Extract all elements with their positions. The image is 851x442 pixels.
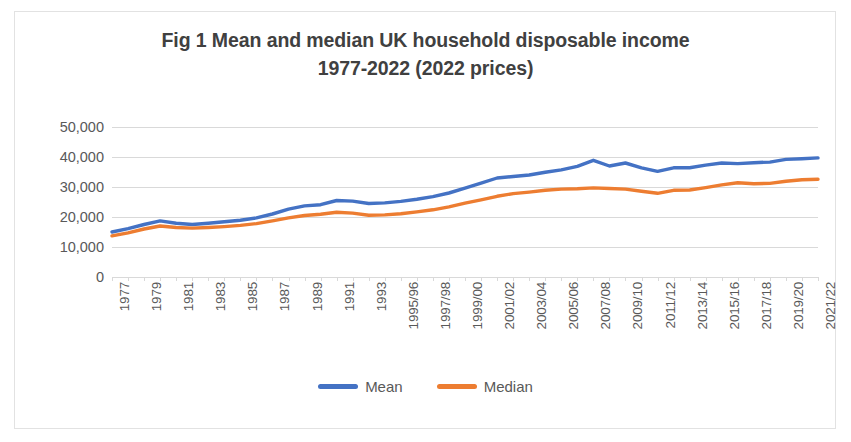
x-axis-tick: [674, 277, 675, 281]
x-axis-tick: [337, 277, 338, 281]
legend-item-mean[interactable]: Mean: [318, 378, 403, 395]
x-axis-tick: [593, 277, 594, 281]
x-axis-tick: [240, 277, 241, 281]
x-axis-tick: [256, 277, 257, 281]
x-axis-tick: [642, 277, 643, 281]
x-axis-tick: [128, 277, 129, 281]
legend-swatch-icon: [318, 384, 358, 389]
chart-title: Fig 1 Mean and median UK household dispo…: [0, 26, 851, 82]
x-axis-tick: [369, 277, 370, 281]
x-axis-tick-label: 1993: [374, 282, 389, 311]
series-lines: [112, 127, 818, 277]
x-axis-tick: [625, 277, 626, 281]
x-axis-labels: 1977197919811983198519871989199119931995…: [112, 282, 818, 362]
x-axis-tick: [658, 277, 659, 281]
x-axis-tick-label: 2013/14: [695, 282, 710, 329]
x-axis-tick: [433, 277, 434, 281]
x-axis-tick: [417, 277, 418, 281]
x-axis-tick: [722, 277, 723, 281]
x-axis-tick-label: 2017/18: [759, 282, 774, 329]
series-line-mean: [112, 158, 818, 232]
x-axis-tick: [545, 277, 546, 281]
x-axis-tick-label: 1981: [181, 282, 196, 311]
x-axis-tick-label: 2003/04: [534, 282, 549, 329]
x-axis-tick: [690, 277, 691, 281]
y-axis-tick-label: 0: [30, 269, 104, 285]
y-axis-tick-label: 40,000: [30, 149, 104, 165]
x-axis-tick: [770, 277, 771, 281]
x-axis-tick-label: 1995/96: [406, 282, 421, 329]
y-axis-tick-label: 30,000: [30, 179, 104, 195]
y-axis-tick-label: 10,000: [30, 239, 104, 255]
x-axis-tick: [818, 277, 819, 281]
x-axis-tick-label: 1983: [213, 282, 228, 311]
x-axis-tick-label: 2015/16: [727, 282, 742, 329]
x-axis-tick-label: 2007/08: [598, 282, 613, 329]
x-axis-tick: [272, 277, 273, 281]
x-axis-tick: [192, 277, 193, 281]
x-axis-tick-label: 2011/12: [663, 282, 678, 328]
x-axis-tick: [529, 277, 530, 281]
x-axis-tick-label: 2021/22: [823, 282, 838, 329]
x-axis-tick: [465, 277, 466, 281]
x-axis-tick: [289, 277, 290, 281]
x-axis-tick-label: 1989: [310, 282, 325, 311]
x-axis-tick: [577, 277, 578, 281]
x-axis-tick: [706, 277, 707, 281]
x-axis-tick: [754, 277, 755, 281]
x-axis-tick: [112, 277, 113, 281]
x-axis-tick: [609, 277, 610, 281]
y-axis-tick-label: 20,000: [30, 209, 104, 225]
x-axis-tick: [802, 277, 803, 281]
x-axis-tick: [481, 277, 482, 281]
x-axis-tick: [449, 277, 450, 281]
x-axis-tick: [321, 277, 322, 281]
plot-area: [112, 127, 818, 277]
x-axis-tick-label: 2005/06: [566, 282, 581, 329]
x-axis-tick-label: 1987: [277, 282, 292, 311]
x-axis-tick: [160, 277, 161, 281]
x-axis-tick: [385, 277, 386, 281]
x-axis-tick-label: 2019/20: [791, 282, 806, 329]
legend-label: Median: [484, 378, 533, 395]
x-axis-tick: [208, 277, 209, 281]
legend-label: Mean: [365, 378, 403, 395]
x-axis-tick-label: 1977: [117, 282, 132, 311]
y-axis-tick-label: 50,000: [30, 119, 104, 135]
chart-title-line-1: Fig 1 Mean and median UK household dispo…: [162, 29, 690, 51]
x-axis-tick: [305, 277, 306, 281]
x-axis-tick-label: 1999/00: [470, 282, 485, 329]
x-axis-tick: [786, 277, 787, 281]
x-axis-tick-label: 1991: [342, 282, 357, 311]
x-axis-tick: [353, 277, 354, 281]
x-axis-tick-label: 1997/98: [438, 282, 453, 329]
legend-item-median[interactable]: Median: [437, 378, 533, 395]
legend-swatch-icon: [437, 384, 477, 389]
chart-title-line-2: 1977-2022 (2022 prices): [0, 54, 851, 82]
x-axis-tick-label: 1979: [149, 282, 164, 311]
x-axis-tick: [401, 277, 402, 281]
x-axis-tick-label: 2009/10: [630, 282, 645, 329]
x-axis-tick: [176, 277, 177, 281]
x-axis-tick: [497, 277, 498, 281]
x-axis-tick: [144, 277, 145, 281]
x-axis-tick-label: 2001/02: [502, 282, 517, 329]
x-axis-tick: [738, 277, 739, 281]
y-axis-labels: 010,00020,00030,00040,00050,000: [28, 0, 104, 442]
x-axis-tick: [224, 277, 225, 281]
x-axis-tick: [561, 277, 562, 281]
x-axis-tick: [513, 277, 514, 281]
chart-legend: MeanMedian: [0, 378, 851, 395]
chart-figure: Fig 1 Mean and median UK household dispo…: [0, 0, 851, 442]
x-axis-tick-label: 1985: [245, 282, 260, 311]
